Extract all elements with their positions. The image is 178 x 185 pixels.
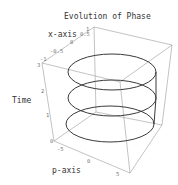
phase-helix (66, 54, 156, 142)
p-axis-label: p-axis (52, 166, 81, 175)
x-tick: 0 (70, 39, 73, 45)
x-axis-label: x-axis (48, 30, 77, 39)
x-tick: -1 (40, 56, 47, 62)
phase-plot-3d: Evolution of Phase x-axis 1 0.5 0 -0.5 -… (0, 0, 178, 185)
chart-title: Evolution of Phase (64, 12, 151, 21)
time-axis-label: Time (12, 96, 31, 105)
x-tick: 0.5 (80, 31, 90, 37)
time-tick: 3 (37, 62, 40, 68)
p-tick: 0 (87, 158, 90, 164)
x-tick: -0.5 (50, 48, 63, 54)
time-tick: 1 (46, 112, 49, 118)
p-tick: -5 (57, 146, 64, 152)
time-tick: 0 (50, 138, 53, 144)
time-tick: 2 (41, 88, 44, 94)
p-tick: 5 (116, 171, 119, 177)
